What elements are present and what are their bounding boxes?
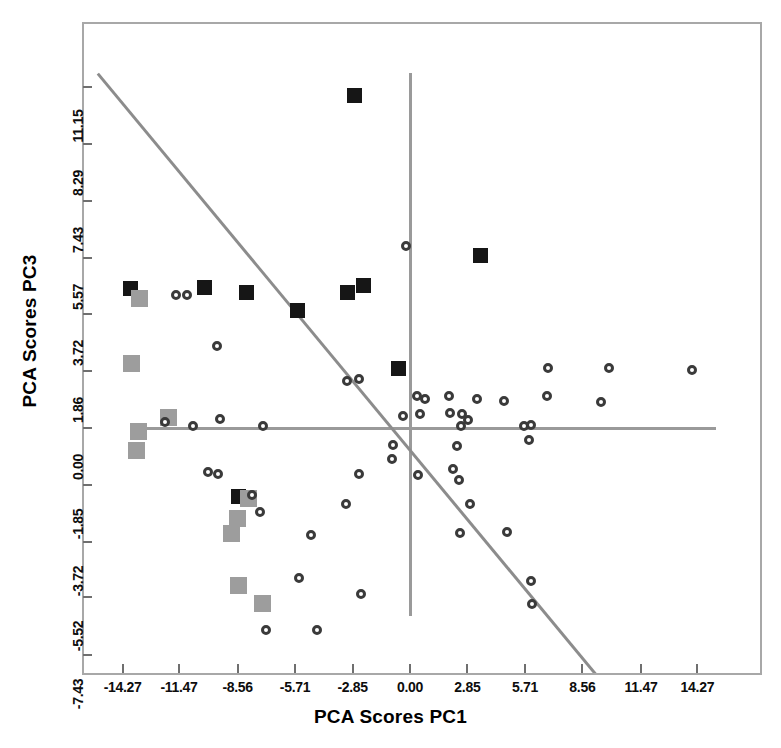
data-point-open-circle (499, 396, 509, 406)
x-tick (581, 664, 583, 673)
data-point-open-circle (526, 420, 536, 430)
data-point-black-square (340, 285, 355, 300)
data-point-open-circle (388, 440, 398, 450)
data-point-open-circle (420, 394, 430, 404)
data-point-open-circle (398, 411, 408, 421)
data-point-open-circle (472, 394, 482, 404)
data-point-open-circle (448, 464, 458, 474)
data-point-open-circle (312, 625, 322, 635)
x-tick-label: 14.27 (657, 679, 737, 695)
vertical-reference-line (409, 73, 412, 616)
data-point-open-circle (306, 530, 316, 540)
x-tick (294, 664, 296, 673)
data-point-open-circle (596, 397, 606, 407)
data-point-open-circle (502, 527, 512, 537)
data-point-open-circle (213, 469, 223, 479)
data-point-open-circle (543, 363, 553, 373)
x-tick (409, 664, 411, 673)
plot-area (84, 24, 760, 673)
data-point-open-circle (542, 391, 552, 401)
data-point-open-circle (465, 499, 475, 509)
data-point-gray-square (131, 290, 148, 307)
data-point-open-circle (294, 573, 304, 583)
data-point-open-circle (413, 470, 423, 480)
data-point-black-square (391, 361, 406, 376)
data-point-gray-square (230, 577, 247, 594)
data-point-open-circle (687, 365, 697, 375)
x-tick (352, 664, 354, 673)
data-point-black-square (356, 278, 371, 293)
horizontal-reference-line (133, 427, 716, 430)
data-point-open-circle (524, 435, 534, 445)
data-point-open-circle (354, 374, 364, 384)
data-point-open-circle (203, 467, 213, 477)
data-point-open-circle (354, 469, 364, 479)
data-point-open-circle (255, 507, 265, 517)
data-point-black-square (347, 88, 362, 103)
data-point-open-circle (526, 576, 536, 586)
x-tick (237, 664, 239, 673)
data-point-open-circle (444, 391, 454, 401)
data-point-open-circle (527, 599, 537, 609)
data-point-gray-square (130, 423, 147, 440)
data-point-open-circle (387, 454, 397, 464)
x-tick (640, 664, 642, 673)
x-tick (696, 664, 698, 673)
data-point-black-square (239, 285, 254, 300)
data-point-gray-square (223, 525, 240, 542)
data-point-black-square (197, 280, 212, 295)
pca-scores-scatter-plot: PCA Scores PC3 -14.27-11.47-8.56-5.71-2.… (0, 0, 781, 748)
y-axis-title: PCA Scores PC3 (19, 161, 41, 501)
data-point-open-circle (356, 589, 366, 599)
data-point-gray-square (254, 595, 271, 612)
x-axis-title: PCA Scores PC1 (0, 706, 781, 728)
data-point-open-circle (463, 415, 473, 425)
x-tick (466, 664, 468, 673)
data-point-open-circle (212, 341, 222, 351)
data-point-black-square (290, 303, 305, 318)
data-point-open-circle (452, 441, 462, 451)
data-point-gray-square (123, 355, 140, 372)
plot-frame (82, 22, 762, 675)
x-tick (524, 664, 526, 673)
data-point-open-circle (341, 499, 351, 509)
data-point-open-circle (455, 528, 465, 538)
data-point-open-circle (415, 409, 425, 419)
x-tick (178, 664, 180, 673)
data-point-open-circle (182, 290, 192, 300)
data-point-gray-square (128, 442, 145, 459)
data-point-black-square (473, 248, 488, 263)
data-point-open-circle (454, 475, 464, 485)
data-point-open-circle (342, 376, 352, 386)
data-point-open-circle (215, 414, 225, 424)
data-point-open-circle (261, 625, 271, 635)
data-point-open-circle (171, 290, 181, 300)
diagonal-trend-line (84, 24, 760, 673)
data-point-open-circle (604, 363, 614, 373)
data-point-open-circle (445, 408, 455, 418)
x-tick (122, 664, 124, 673)
